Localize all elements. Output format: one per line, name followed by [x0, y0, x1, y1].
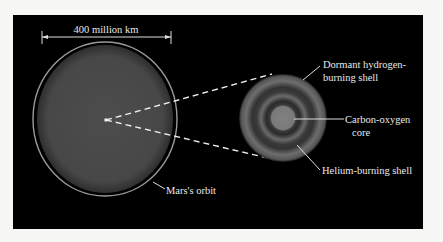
scale-label: 400 million km: [74, 24, 139, 35]
dormant-label-1: Dormant hydrogen-: [323, 59, 407, 70]
scale-bar: 400 million km: [42, 24, 171, 44]
dormant-label-2: burning shell: [323, 72, 378, 83]
core-label-1: Carbon-oxygen: [345, 114, 411, 125]
helium-label: Helium-burning shell: [322, 165, 412, 176]
core-label-2: core: [352, 127, 370, 138]
orbit-leader-line: [153, 182, 165, 189]
orbit-label: Mars's orbit: [166, 185, 216, 196]
dormant-leader-line: [303, 66, 320, 80]
stellar-core-cross-section: [239, 74, 327, 162]
red-giant-diagram: 400 million km Mars's orbit Dormant hydr…: [0, 0, 443, 242]
